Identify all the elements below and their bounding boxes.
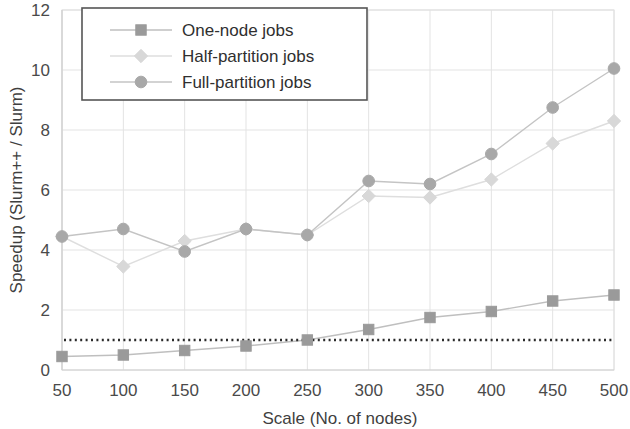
x-tick-label: 150 [170, 381, 198, 400]
legend-swatch-marker-one-node-jobs [136, 25, 146, 35]
data-point-full-partition-jobs [179, 246, 191, 258]
x-tick-label: 350 [416, 381, 444, 400]
x-tick-label: 400 [477, 381, 505, 400]
chart-legend: One-node jobsHalf-partition jobsFull-par… [82, 8, 367, 100]
data-point-one-node-jobs [179, 345, 189, 355]
data-point-full-partition-jobs [302, 229, 314, 241]
y-tick-label: 0 [41, 361, 50, 380]
x-tick-label: 50 [53, 381, 72, 400]
x-axis-title: Scale (No. of nodes) [263, 409, 418, 428]
data-point-one-node-jobs [241, 341, 251, 351]
data-point-one-node-jobs [57, 351, 67, 361]
y-tick-label: 8 [41, 121, 50, 140]
data-point-full-partition-jobs [118, 223, 130, 235]
data-point-full-partition-jobs [56, 231, 68, 243]
x-tick-label: 300 [354, 381, 382, 400]
data-point-one-node-jobs [363, 324, 373, 334]
legend-swatch-marker-full-partition-jobs [135, 76, 147, 88]
data-point-one-node-jobs [118, 350, 128, 360]
speedup-line-chart: 024681012 50100150200250300350400450500 … [0, 0, 630, 429]
legend-label-one-node-jobs: One-node jobs [182, 21, 294, 40]
y-tick-label: 6 [41, 181, 50, 200]
data-point-full-partition-jobs [608, 63, 620, 75]
data-point-one-node-jobs [302, 335, 312, 345]
data-point-full-partition-jobs [486, 148, 498, 160]
y-tick-label: 10 [31, 61, 50, 80]
legend-label-half-partition-jobs: Half-partition jobs [182, 47, 314, 66]
y-tick-label: 12 [31, 1, 50, 20]
data-point-one-node-jobs [547, 296, 557, 306]
data-point-full-partition-jobs [547, 102, 559, 114]
chart-canvas: 024681012 50100150200250300350400450500 … [0, 0, 630, 429]
y-axis-title: Speedup (Slurm++ / Slurm) [7, 87, 26, 294]
x-tick-label: 100 [109, 381, 137, 400]
data-point-full-partition-jobs [240, 223, 252, 235]
y-tick-label: 2 [41, 301, 50, 320]
x-tick-label: 450 [538, 381, 566, 400]
data-point-full-partition-jobs [424, 178, 436, 190]
data-point-one-node-jobs [486, 306, 496, 316]
y-tick-label: 4 [41, 241, 50, 260]
data-point-one-node-jobs [609, 290, 619, 300]
data-point-full-partition-jobs [363, 175, 375, 187]
legend-label-full-partition-jobs: Full-partition jobs [182, 73, 311, 92]
data-point-one-node-jobs [425, 312, 435, 322]
x-tick-label: 200 [232, 381, 260, 400]
x-tick-label: 500 [600, 381, 628, 400]
x-tick-label: 250 [293, 381, 321, 400]
